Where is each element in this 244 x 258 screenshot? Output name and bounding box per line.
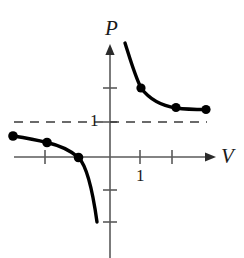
curve-left-branch [13,136,97,222]
data-point-marker [8,131,18,141]
data-point-marker [74,153,84,163]
y-axis-arrowhead [105,44,114,55]
y-axis-tick-label-1: 1 [90,112,99,129]
data-point-marker [171,103,180,112]
plot-canvas [0,0,244,258]
x-axis-label: V [221,146,234,167]
data-point-marker [136,83,145,92]
y-axis-label: P [105,18,118,39]
curve-right-branch [125,43,206,110]
data-point-marker [201,105,210,114]
pressure-volume-chart: P V 1 1 [0,0,244,258]
x-axis-arrowhead [205,153,216,162]
data-point-marker [42,138,52,148]
x-axis-tick-label-1: 1 [136,167,145,184]
